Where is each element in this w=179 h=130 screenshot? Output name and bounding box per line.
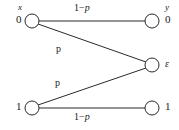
- node-label-output-erasure: ε: [165, 59, 169, 69]
- node-label-output-0: 0: [165, 14, 171, 25]
- input-variable-label: x: [18, 3, 22, 12]
- node-label-input-1: 1: [16, 101, 22, 112]
- node-label-input-0: 0: [16, 14, 22, 25]
- edge-label-input1-to-erasure: p: [55, 78, 60, 88]
- node-output-0: [145, 14, 159, 28]
- edge-label-p: p: [85, 111, 90, 122]
- node-label-output-1: 1: [165, 101, 171, 112]
- edge-label-input0-to-erasure: p: [56, 44, 61, 54]
- edge-label-input0-to-output0: 1−p: [74, 3, 90, 13]
- edge-label-input1-to-output1: 1−p: [74, 112, 90, 122]
- edge-input0-to-erasure: [38, 24, 146, 62]
- node-output-erasure: [145, 58, 159, 72]
- node-input-0: [25, 14, 39, 28]
- output-variable-label: y: [165, 3, 169, 12]
- binary-erasure-channel-figure: x 0 1 y 0 ε 1 1−p 1−p p p: [0, 0, 179, 130]
- node-input-1: [25, 101, 39, 115]
- node-output-1: [145, 101, 159, 115]
- edge-label-p: p: [85, 2, 90, 13]
